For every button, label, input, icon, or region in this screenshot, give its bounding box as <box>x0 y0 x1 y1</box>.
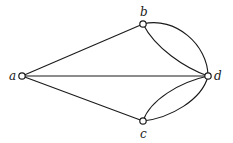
node-b <box>140 21 146 27</box>
edge-c-d-outer <box>143 76 208 121</box>
edge-b-d-outer <box>143 23 208 76</box>
edge-b-d-inner <box>143 24 208 76</box>
edge-a-c <box>22 76 143 121</box>
edge-a-b <box>22 24 143 76</box>
edge-c-d-inner <box>143 76 208 121</box>
label-d: d <box>214 69 222 83</box>
node-d <box>205 73 211 79</box>
label-c: c <box>140 127 147 141</box>
label-a: a <box>9 69 16 83</box>
label-b: b <box>140 5 148 19</box>
node-c <box>140 118 146 124</box>
node-a <box>19 73 25 79</box>
multigraph-diagram: a b c d <box>0 0 233 143</box>
